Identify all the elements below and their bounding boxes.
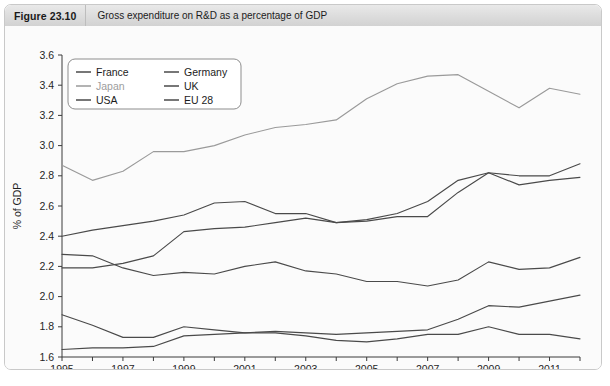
x-tick-label: 2005	[355, 363, 379, 369]
y-axis-title: % of GDP	[11, 183, 23, 230]
figure-title: Gross expenditure on R&D as a percentage…	[86, 10, 327, 21]
legend-label-usa: USA	[96, 94, 118, 106]
legend-label-japan: Japan	[96, 80, 125, 92]
chart-legend: FranceGermanyJapanUKUSAEU 28	[68, 59, 241, 109]
chart-plot-area: 1.61.82.02.22.42.62.83.03.23.43.6 199519…	[5, 26, 601, 369]
x-tick-label: 2011	[538, 363, 561, 369]
x-tick-label: 1995	[50, 363, 74, 369]
y-tick-label: 2.0	[39, 290, 54, 302]
legend-label-france: France	[96, 66, 129, 78]
x-tick-label: 1997	[111, 363, 135, 369]
y-tick-label: 2.6	[39, 200, 54, 212]
y-tick-label: 1.6	[39, 351, 54, 363]
figure-number: Figure 23.10	[5, 10, 76, 22]
x-tick-label: 2007	[416, 363, 440, 369]
x-tick-label: 2009	[477, 363, 501, 369]
y-tick-label: 3.6	[39, 49, 54, 61]
y-tick-label: 3.2	[39, 109, 54, 121]
series-line-usa	[62, 173, 580, 236]
figure-card: Figure 23.10 Gross expenditure on R&D as…	[4, 4, 602, 370]
series-line-eu-28	[62, 295, 580, 349]
line-chart: 1.61.82.02.22.42.62.83.03.23.43.6 199519…	[5, 26, 601, 369]
y-tick-label: 1.8	[39, 320, 54, 332]
x-tick-label: 2003	[294, 363, 318, 369]
y-tick-label: 3.4	[39, 79, 54, 91]
y-tick-label: 3.0	[39, 139, 54, 151]
legend-label-germany: Germany	[184, 66, 228, 78]
y-tick-label: 2.8	[39, 169, 54, 181]
series-line-germany	[62, 164, 580, 268]
chart-series-group	[62, 75, 580, 350]
x-tick-label: 2001	[233, 363, 257, 369]
legend-label-eu-28: EU 28	[184, 94, 213, 106]
y-tick-label: 2.4	[39, 230, 54, 242]
figure-header: Figure 23.10 Gross expenditure on R&D as…	[5, 5, 601, 27]
series-line-uk	[62, 315, 580, 342]
y-tick-label: 2.2	[39, 260, 54, 272]
x-tick-label: 1999	[172, 363, 196, 369]
y-axis-ticks: 1.61.82.02.22.42.62.83.03.23.43.6	[39, 49, 62, 363]
legend-label-uk: UK	[184, 80, 199, 92]
x-axis-ticks: 199519971999200120032005200720092011	[50, 357, 580, 369]
